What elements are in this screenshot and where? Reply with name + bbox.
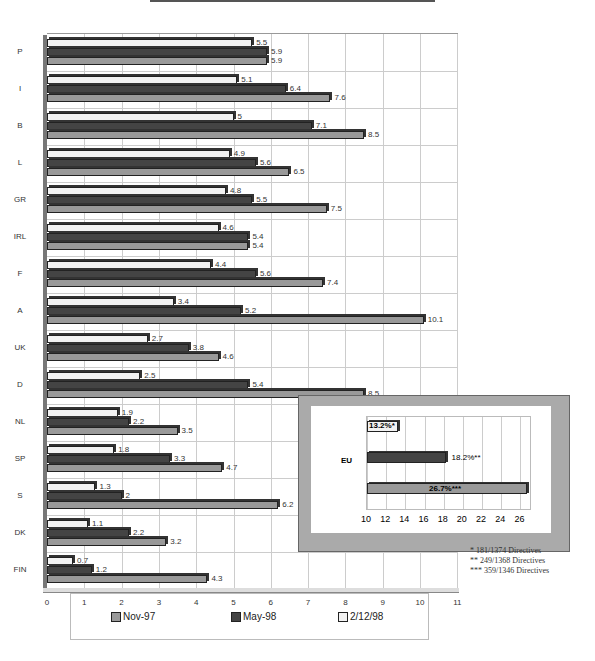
footnote-3: *** 359/1346 Directives (470, 566, 549, 575)
category-label: D (0, 380, 40, 389)
value-label: 5.4 (252, 241, 263, 250)
bar (47, 205, 327, 213)
bar (47, 492, 122, 500)
bar (47, 566, 92, 574)
footnote-1: * 181/1374 Directives (470, 546, 541, 555)
gridline (405, 417, 406, 509)
gridline (47, 552, 457, 553)
value-label: 5.9 (271, 56, 282, 65)
bar (47, 131, 364, 139)
value-label: 2.7 (152, 334, 163, 343)
gridline (47, 330, 457, 331)
value-label: 5 (238, 112, 242, 121)
inset-value-label: 18.2%** (452, 453, 481, 462)
gridline (47, 71, 457, 72)
bar (47, 196, 252, 204)
inset-panel: EU 10121416182022242613.2%*18.2%**26.7%*… (311, 406, 551, 533)
value-label: 5.5 (256, 195, 267, 204)
inset-x-tick: 10 (356, 514, 376, 524)
gridline (47, 182, 457, 183)
bar (47, 446, 114, 454)
gridline (47, 219, 457, 220)
category-label: S (0, 491, 40, 500)
bar (47, 85, 286, 93)
bar (47, 122, 312, 130)
value-label: 1.9 (122, 408, 133, 417)
bar (47, 233, 248, 241)
x-tick: 0 (37, 598, 57, 607)
bar (47, 529, 129, 537)
category-label: NL (0, 417, 40, 426)
value-label: 4.7 (226, 463, 237, 472)
bar (47, 113, 234, 121)
gridline (47, 108, 457, 109)
bar (47, 39, 252, 47)
gridline (444, 417, 445, 509)
top-rule (150, 0, 435, 2)
category-label: A (0, 306, 40, 315)
inset-bar (367, 452, 446, 463)
category-label: SP (0, 454, 40, 463)
bar (47, 418, 129, 426)
legend-item-21298: 2/12/98 (338, 611, 383, 622)
value-label: 7.5 (331, 204, 342, 213)
category-label: FIN (0, 565, 40, 574)
gridline (47, 145, 457, 146)
value-label: 4.6 (223, 223, 234, 232)
category-label: I (0, 84, 40, 93)
value-label: 3.5 (182, 426, 193, 435)
value-label: 5.6 (260, 269, 271, 278)
inset-x-tick: 16 (414, 514, 434, 524)
category-label: IRL (0, 232, 40, 241)
value-label: 5.4 (252, 380, 263, 389)
bar (47, 557, 73, 565)
bar (47, 94, 330, 102)
category-label: L (0, 158, 40, 167)
bar (47, 242, 248, 250)
category-label: P (0, 47, 40, 56)
gridline (501, 417, 502, 509)
value-label: 3.8 (193, 343, 204, 352)
value-label: 5.2 (245, 306, 256, 315)
gridline (47, 256, 457, 257)
value-label: 2.2 (133, 528, 144, 537)
bar (47, 187, 226, 195)
bar (47, 501, 278, 509)
gridline (425, 417, 426, 509)
value-label: 2 (126, 491, 130, 500)
bar (47, 335, 148, 343)
inset-x-tick: 26 (509, 514, 529, 524)
category-label: GR (0, 195, 40, 204)
value-label: 2.2 (133, 417, 144, 426)
value-label: 3.3 (174, 454, 185, 463)
value-label: 4.3 (211, 574, 222, 583)
value-label: 4.4 (215, 260, 226, 269)
bar (47, 427, 178, 435)
value-label: 5.4 (252, 232, 263, 241)
value-label: 2.5 (144, 371, 155, 380)
bar (47, 520, 88, 528)
gridline (47, 293, 457, 294)
bar (47, 76, 237, 84)
gridline (482, 417, 483, 509)
category-label: DK (0, 528, 40, 537)
bar (47, 150, 230, 158)
value-label: 6.5 (293, 167, 304, 176)
bar (47, 298, 174, 306)
inset-x-tick: 12 (375, 514, 395, 524)
bar (47, 57, 267, 65)
value-label: 6.2 (282, 500, 293, 509)
bar (47, 381, 248, 389)
bar (47, 159, 256, 167)
value-label: 4.9 (234, 149, 245, 158)
bar (47, 575, 207, 583)
value-label: 5.9 (271, 47, 282, 56)
x-tick: 11 (447, 598, 467, 607)
bar (47, 353, 219, 361)
inset-category: EU (341, 456, 352, 465)
bar (47, 48, 267, 56)
value-label: 1.3 (99, 482, 110, 491)
value-label: 5.5 (256, 38, 267, 47)
bar (47, 538, 166, 546)
bar (47, 455, 170, 463)
